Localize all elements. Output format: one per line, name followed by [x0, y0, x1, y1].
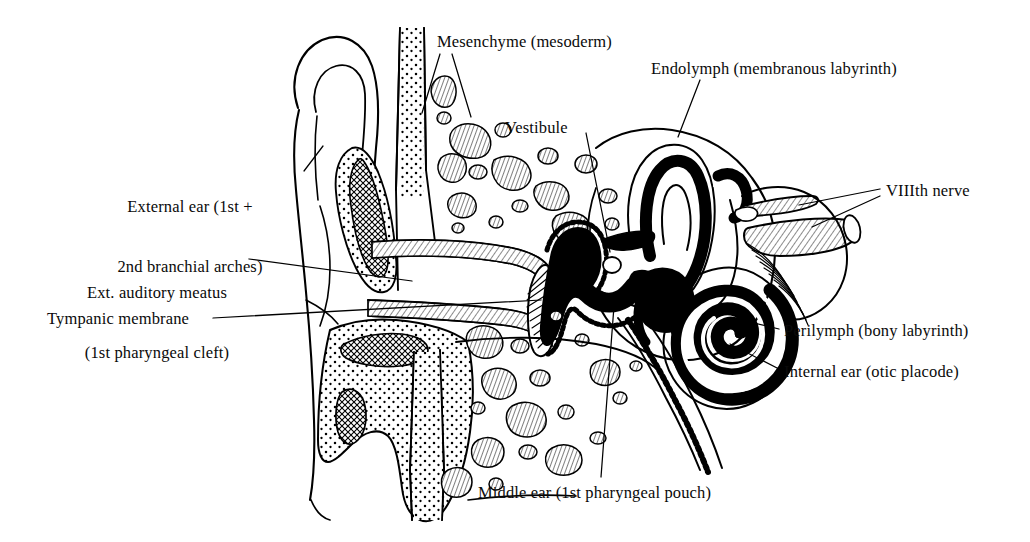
label-vestibule: Vestibule: [505, 118, 568, 138]
label-viiith-nerve: VIIIth nerve: [886, 181, 970, 201]
label-external-ear-line1: External ear (1st +: [80, 197, 300, 217]
label-ext-auditory-meatus-line2: (1st pharyngeal cleft): [62, 343, 252, 363]
label-ext-auditory-meatus-line1: Ext. auditory meatus: [62, 283, 252, 303]
label-middle-ear: Middle ear (1st pharyngeal pouch): [478, 483, 711, 503]
label-mesenchyme: Mesenchyme (mesoderm): [437, 32, 612, 52]
label-perilymph: Perilymph (bony labyrinth): [784, 321, 968, 341]
label-tympanic-membrane: Tympanic membrane: [47, 309, 189, 329]
label-endolymph: Endolymph (membranous labyrinth): [651, 59, 897, 79]
ear-anatomy-figure: External ear (1st + 2nd branchial arches…: [0, 0, 1030, 542]
label-internal-ear: Internal ear (otic placode): [784, 362, 959, 382]
